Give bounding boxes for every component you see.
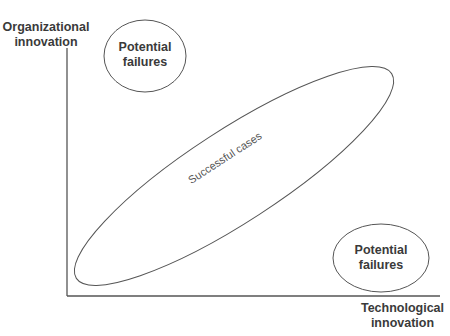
successful-cases-label: Successful cases	[186, 129, 264, 186]
diagram-canvas: Successful cases	[0, 0, 450, 336]
potential-failures-label-bottom-right: Potential failures	[333, 243, 429, 273]
potential-failures-label-top-left: Potential failures	[104, 40, 186, 70]
y-axis-label: Organizational innovation	[0, 20, 92, 50]
successful-cases-ellipse	[51, 35, 416, 317]
x-axis-label: Technological innovation	[355, 301, 450, 331]
